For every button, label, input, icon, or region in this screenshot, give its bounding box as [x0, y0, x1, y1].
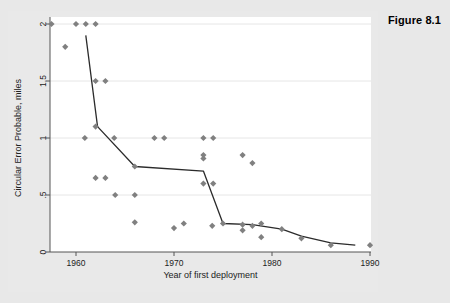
- x-tick-label: 1970: [165, 258, 184, 268]
- x-axis-ticks: 1960197019801990: [67, 252, 380, 268]
- plot-background: [50, 17, 371, 252]
- y-axis-ticks: 0.511.52: [38, 21, 50, 254]
- y-axis-title: Circular Error Probable, miles: [13, 78, 23, 197]
- x-tick-label: 1990: [361, 258, 380, 268]
- y-tick-label: 1.5: [38, 75, 48, 87]
- y-tick-label: .5: [38, 191, 48, 198]
- y-tick-label: 0: [38, 249, 48, 254]
- y-tick-label: 1: [38, 135, 48, 140]
- x-tick-label: 1980: [263, 258, 282, 268]
- x-tick-label: 1960: [67, 258, 86, 268]
- chart-plot: 0.511.52 1960197019801990 Year of first …: [0, 0, 450, 303]
- x-axis-title: Year of first deployment: [163, 270, 258, 280]
- plot-area: [50, 17, 371, 252]
- figure-root: Figure 8.1 0.511.52 1960197019801990 Yea…: [0, 0, 450, 303]
- y-tick-label: 2: [38, 21, 48, 26]
